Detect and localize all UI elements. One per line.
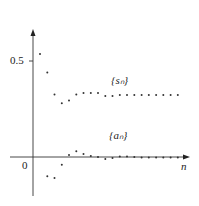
data-point: [75, 94, 77, 96]
data-point: [170, 157, 172, 159]
data-point: [141, 157, 143, 159]
data-point: [119, 94, 121, 96]
series-a-points: [46, 150, 179, 179]
series-s-label: {sₙ}: [111, 75, 128, 86]
data-point: [97, 92, 99, 94]
data-point: [162, 157, 164, 159]
data-point: [148, 157, 150, 159]
data-point: [112, 157, 114, 159]
data-point: [126, 94, 128, 96]
data-point: [104, 158, 106, 160]
data-point: [133, 94, 135, 96]
data-point: [75, 150, 77, 152]
x-axis-arrow-icon: [183, 155, 190, 160]
data-point: [54, 177, 56, 179]
data-point: [162, 94, 164, 96]
y-tick-label-0.5: 0.5: [10, 55, 24, 66]
data-point: [90, 92, 92, 94]
data-point: [177, 94, 179, 96]
data-point: [119, 155, 121, 157]
data-point: [126, 155, 128, 157]
data-point: [170, 94, 172, 96]
data-point: [83, 92, 85, 94]
data-point: [68, 154, 70, 156]
data-point: [54, 94, 56, 96]
data-point: [141, 94, 143, 96]
data-point: [46, 175, 48, 177]
data-point: [61, 102, 63, 104]
data-point: [155, 94, 157, 96]
data-point: [46, 72, 48, 74]
data-point: [90, 155, 92, 157]
data-point: [148, 94, 150, 96]
data-point: [68, 99, 70, 101]
data-point: [155, 157, 157, 159]
y-axis-arrow-icon: [31, 29, 36, 36]
origin-label: 0: [22, 160, 28, 171]
data-point: [39, 53, 41, 55]
chart-plot-area: [0, 0, 199, 206]
data-point: [97, 156, 99, 158]
data-point: [104, 95, 106, 97]
axes: [10, 29, 190, 196]
series-a-label: {aₙ}: [109, 130, 127, 141]
x-axis-label: n: [181, 161, 187, 172]
data-point: [177, 157, 179, 159]
data-point: [133, 156, 135, 158]
data-point: [112, 95, 114, 97]
data-point: [83, 153, 85, 155]
data-point: [61, 164, 63, 166]
series-s-points: [39, 53, 179, 104]
